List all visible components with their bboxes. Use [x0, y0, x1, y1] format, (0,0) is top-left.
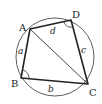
vertex-a-label: A — [18, 22, 27, 33]
vertex-d-label: D — [72, 9, 80, 20]
vertex-c-label: C — [89, 87, 97, 98]
side-b-label: b — [48, 84, 54, 94]
side-d-label: d — [50, 26, 56, 36]
vertex-b-label: B — [11, 78, 18, 89]
side-a-label: a — [18, 46, 23, 56]
diagonal-ac — [30, 29, 88, 84]
cyclic-quadrilateral-diagram: A B C D a b c d — [0, 0, 102, 104]
side-c-label: c — [81, 45, 86, 55]
